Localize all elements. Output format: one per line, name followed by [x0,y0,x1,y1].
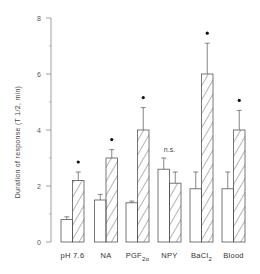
bar-group [190,32,213,242]
open-bar [190,189,202,242]
significance-marker [206,32,209,35]
bar-group: n.s. [158,146,181,242]
significance-marker [238,99,241,102]
x-category-label: BaCl2 [191,251,212,262]
y-tick-label: 4 [37,127,41,134]
bar-group [222,99,245,242]
x-category-label: NA [100,251,111,260]
y-axis: 02468 [37,15,51,246]
y-tick-label: 0 [37,239,41,246]
hatched-bar [73,180,85,242]
open-bar [95,200,107,242]
significance-marker [77,160,80,163]
bars: n.s. [61,32,245,242]
open-bar [61,220,73,242]
not-significant-label: n.s. [164,146,175,153]
significance-marker [142,96,145,99]
significance-marker [110,138,113,141]
bar-group [61,160,84,242]
hatched-bar [170,183,182,242]
bar-chart: 02468 n.s. pH 7.6NAPGF2αNPYBaCl2Blood Du… [0,0,260,274]
x-category-label: NPY [161,251,177,260]
x-category-label: pH 7.6 [61,251,85,260]
open-bar [126,203,138,242]
open-bar [222,189,234,242]
hatched-bar [234,130,246,242]
x-category-label: Blood [223,251,244,260]
open-bar [158,169,170,242]
hatched-bar [202,74,214,242]
x-category-label: PGF2α [126,251,150,262]
y-tick-label: 8 [37,15,41,22]
y-axis-title: Duration of response (T 1/2, min) [14,86,22,198]
bar-group [95,138,118,242]
hatched-bar [106,158,118,242]
bar-group [126,96,149,242]
category-labels: pH 7.6NAPGF2αNPYBaCl2Blood [61,251,244,262]
y-tick-label: 2 [37,183,41,190]
y-tick-label: 6 [37,71,41,78]
hatched-bar [138,130,150,242]
